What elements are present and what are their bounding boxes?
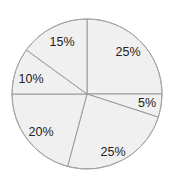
pie-chart-svg: 25%5%25%20%10%15% — [0, 0, 170, 178]
slice-label: 10% — [18, 72, 43, 86]
pie-slices — [12, 19, 162, 169]
slice-label: 15% — [49, 35, 74, 49]
slice-label: 20% — [28, 125, 53, 139]
slice-label: 25% — [115, 45, 140, 59]
slice-label: 25% — [100, 145, 125, 159]
pie-chart: 25%5%25%20%10%15% — [0, 0, 170, 178]
slice-label: 5% — [138, 96, 156, 110]
